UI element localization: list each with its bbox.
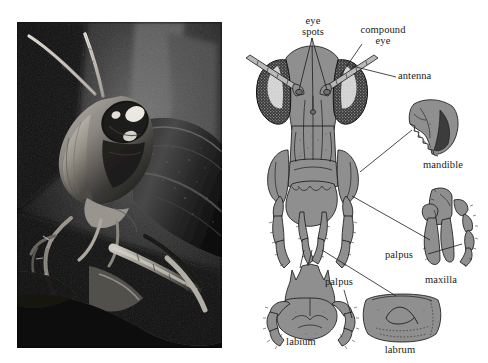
compound-eye-right-shape — [333, 60, 367, 124]
label-eye-spots-line2: spots — [302, 27, 324, 38]
mandible-detail-shape — [409, 100, 458, 156]
maxilla-detail-shape — [422, 188, 478, 267]
label-compound-eye: compound eye — [360, 25, 405, 46]
label-compound-eye-line2: eye — [360, 36, 405, 47]
label-maxilla-palpus: palpus — [385, 250, 413, 261]
photograph-image — [17, 22, 222, 348]
label-mandible: mandible — [423, 160, 463, 171]
diagram-drawing — [240, 0, 488, 363]
label-labium: labium — [286, 337, 316, 348]
label-maxilla: maxilla — [425, 275, 457, 286]
label-labium-palpus: palpus — [325, 277, 353, 288]
compound-eye-left-shape — [256, 60, 290, 124]
label-antenna: antenna — [398, 71, 431, 82]
grasshopper-photograph — [17, 22, 222, 348]
anatomy-figure: eye spots compound eye antenna mandible … — [0, 0, 488, 363]
label-eye-spots: eye spots — [302, 16, 324, 37]
label-labrum: labrum — [385, 345, 415, 356]
head-anatomy-diagram: eye spots compound eye antenna mandible … — [240, 0, 488, 363]
labrum-detail-shape — [363, 294, 441, 342]
